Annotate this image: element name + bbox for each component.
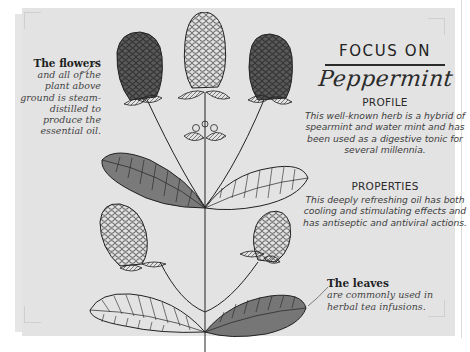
leaf-upper-left <box>102 153 205 208</box>
properties-body: This deeply refreshing oil has both cool… <box>297 194 470 228</box>
page-edge-line <box>461 0 462 338</box>
flowers-title: The flowers <box>33 57 101 69</box>
properties-heading: PROPERTIES <box>300 180 470 192</box>
flowers-annotation: The flowers and all of the plant above g… <box>20 58 101 136</box>
corner-mark <box>24 12 41 29</box>
peppermint-illustration <box>80 12 330 352</box>
profile-body: This well-known herb is a hybrid of spea… <box>297 110 470 156</box>
flower-head-lower-left <box>100 204 166 271</box>
focus-on-heading: FOCUS ON <box>325 42 445 60</box>
leaves-title: The leaves <box>327 277 389 289</box>
leaf-upper-right <box>205 166 308 209</box>
flower-head-right <box>248 34 292 104</box>
flower-head-lower-right <box>240 211 291 263</box>
leaf-lower-left <box>90 294 205 333</box>
peppermint-title: Peppermint <box>315 66 458 91</box>
flower-head-left <box>117 32 162 105</box>
leaf-lower-right <box>205 295 306 337</box>
flower-head-center <box>178 12 230 99</box>
corner-mark <box>428 18 445 35</box>
corner-mark <box>24 306 41 323</box>
flowers-body: and all of the plant above ground is ste… <box>20 69 101 136</box>
profile-heading: PROFILE <box>300 96 470 108</box>
leaves-callout-line <box>308 287 328 306</box>
leaves-annotation: The leaves are commonly used in herbal t… <box>327 278 457 312</box>
leaves-body: are commonly used in herbal tea infusion… <box>327 289 435 312</box>
